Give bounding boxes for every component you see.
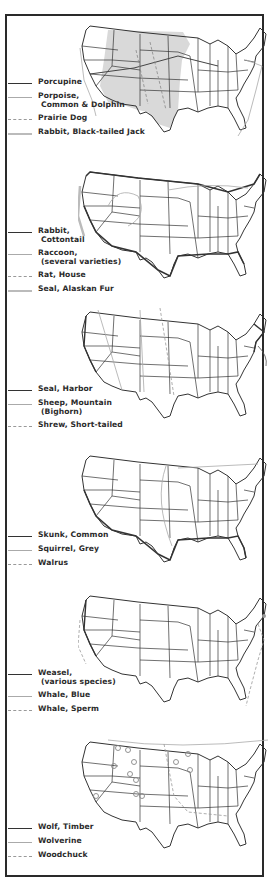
legend-item: Raccoon,(several varieties) — [8, 248, 121, 270]
line-swatch — [8, 290, 32, 292]
legend-label: Sheep, Mountain(Bighorn) — [38, 398, 112, 416]
range-map-panel-2: Rabbit,Cottontail Raccoon,(several varie… — [0, 160, 270, 300]
legend-label: Rabbit,Cottontail — [38, 226, 85, 244]
legend-label: Shrew, Short-tailed — [38, 420, 123, 429]
line-swatch — [8, 842, 32, 843]
legend-item: Rat, House — [8, 270, 121, 284]
legend-label: Raccoon,(several varieties) — [38, 248, 121, 266]
range-map-panel-4: Skunk, Common Squirrel, Grey Walrus — [0, 446, 270, 586]
line-swatch — [8, 536, 32, 537]
range-map-panel-3: Seal, Harbor Sheep, Mountain(Bighorn) Sh… — [0, 302, 270, 442]
legend-item: Sheep, Mountain(Bighorn) — [8, 398, 123, 420]
range-map-panel-1: Porcupine Porpoise,Common & Dolphin Prai… — [0, 14, 270, 154]
line-swatch — [8, 97, 32, 98]
line-swatch — [8, 390, 32, 391]
line-swatch — [8, 404, 32, 405]
legend-item: Wolf, Timber — [8, 822, 94, 836]
legend-label: Porcupine — [38, 77, 82, 86]
legend-label: Weasel,(various species) — [38, 668, 116, 686]
legend-item: Wolverine — [8, 836, 94, 850]
legend-item: Squirrel, Grey — [8, 544, 108, 558]
line-swatch — [8, 828, 32, 829]
us-range-map — [78, 736, 270, 856]
legend: Porcupine Porpoise,Common & Dolphin Prai… — [8, 77, 145, 141]
legend-item: Prairie Dog — [8, 113, 145, 127]
legend-item: Seal, Harbor — [8, 384, 123, 398]
line-swatch — [8, 426, 32, 427]
legend-label: Prairie Dog — [38, 113, 87, 122]
legend-label: Porpoise,Common & Dolphin — [38, 91, 125, 109]
legend-item: Walrus — [8, 558, 108, 572]
legend-label: Rat, House — [38, 270, 86, 279]
line-swatch — [8, 856, 32, 857]
legend-label: Walrus — [38, 558, 68, 567]
legend-label: Rabbit, Black-tailed Jack — [38, 127, 145, 136]
legend-item: Shrew, Short-tailed — [8, 420, 123, 434]
line-swatch — [8, 696, 32, 697]
line-swatch — [8, 254, 32, 255]
legend-item: Rabbit,Cottontail — [8, 226, 121, 248]
legend-label: Wolf, Timber — [38, 822, 94, 831]
range-map-panel-6: Wolf, Timber Wolverine Woodchuck — [0, 734, 270, 877]
line-swatch — [8, 710, 32, 711]
range-map-panel-5: Weasel,(various species) Whale, Blue Wha… — [0, 586, 270, 726]
legend: Rabbit,Cottontail Raccoon,(several varie… — [8, 226, 121, 298]
legend: Skunk, Common Squirrel, Grey Walrus — [8, 530, 108, 572]
legend-label: Whale, Sperm — [38, 704, 99, 713]
legend-label: Woodchuck — [38, 850, 88, 859]
line-swatch — [8, 133, 32, 135]
legend-item: Porpoise,Common & Dolphin — [8, 91, 145, 113]
legend: Weasel,(various species) Whale, Blue Wha… — [8, 668, 116, 718]
legend-label: Squirrel, Grey — [38, 544, 99, 553]
legend-item: Whale, Blue — [8, 690, 116, 704]
line-swatch — [8, 232, 32, 233]
line-swatch — [8, 564, 32, 565]
legend-item: Whale, Sperm — [8, 704, 116, 718]
legend: Wolf, Timber Wolverine Woodchuck — [8, 822, 94, 864]
legend-label: Whale, Blue — [38, 690, 90, 699]
legend-label: Seal, Harbor — [38, 384, 93, 393]
legend-item: Woodchuck — [8, 850, 94, 864]
line-swatch — [8, 674, 32, 675]
legend: Seal, Harbor Sheep, Mountain(Bighorn) Sh… — [8, 384, 123, 434]
legend-item: Skunk, Common — [8, 530, 108, 544]
line-swatch — [8, 276, 32, 277]
legend-item: Seal, Alaskan Fur — [8, 284, 121, 298]
line-swatch — [8, 83, 32, 84]
line-swatch — [8, 550, 32, 551]
legend-label: Skunk, Common — [38, 530, 108, 539]
line-swatch — [8, 119, 32, 120]
legend-item: Rabbit, Black-tailed Jack — [8, 127, 145, 141]
legend-item: Porcupine — [8, 77, 145, 91]
legend-item: Weasel,(various species) — [8, 668, 116, 690]
legend-label: Seal, Alaskan Fur — [38, 284, 114, 293]
legend-label: Wolverine — [38, 836, 82, 845]
